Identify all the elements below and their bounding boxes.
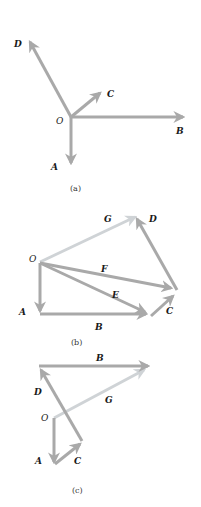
- vector-c-label: C: [107, 89, 115, 99]
- vector-c-arrow: [71, 93, 100, 117]
- vector-a-label: A: [18, 307, 26, 317]
- panel-c: O A B C D G (c): [33, 353, 148, 495]
- vector-d-label: D: [148, 214, 157, 224]
- vector-addition-figure: O A B C D (a) O A B C D E F G (b) O A B …: [0, 0, 201, 507]
- vector-g-arrow: [54, 370, 144, 418]
- origin-label: O: [29, 254, 37, 264]
- vector-b-label: B: [95, 353, 104, 363]
- panel-b: O A B C D E F G (b): [18, 214, 177, 347]
- origin-label: O: [41, 413, 49, 423]
- panel-c-caption: (c): [72, 486, 83, 495]
- vector-d-label: D: [13, 39, 22, 49]
- vector-a-label: A: [50, 162, 58, 172]
- vector-b-label: B: [94, 322, 103, 332]
- vector-e-arrow: [40, 263, 145, 312]
- vector-g-arrow: [40, 217, 135, 262]
- vector-f-label: F: [100, 264, 108, 274]
- vector-a-label: A: [34, 456, 42, 466]
- vector-d-arrow: [30, 42, 71, 117]
- vector-c-label: C: [74, 456, 82, 466]
- vector-c-label: C: [166, 306, 174, 316]
- panel-a: O A B C D (a): [13, 39, 184, 193]
- vector-g-label: G: [105, 395, 113, 405]
- vector-b-label: B: [175, 126, 184, 136]
- panel-b-caption: (b): [71, 338, 82, 347]
- vector-d-label: D: [33, 387, 42, 397]
- vector-g-label: G: [104, 214, 112, 224]
- vector-d-arrow: [137, 219, 177, 290]
- vector-e-label: E: [111, 290, 119, 300]
- origin-label: O: [56, 116, 64, 126]
- panel-a-caption: (a): [70, 184, 81, 193]
